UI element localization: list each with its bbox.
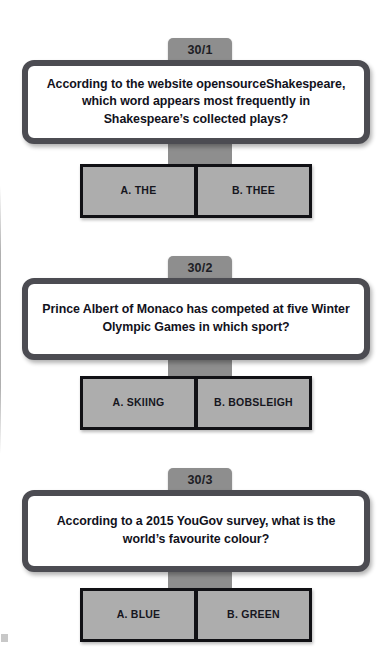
answer-option-a[interactable]: A. BLUE	[83, 591, 194, 639]
answer-option-a-label: A. BLUE	[117, 609, 161, 621]
answer-option-a-label: A. THE	[121, 185, 157, 197]
answer-option-a[interactable]: A. THE	[83, 167, 194, 215]
answer-option-b-label: B. THEE	[232, 185, 275, 197]
answer-option-b-label: B. GREEN	[227, 609, 280, 621]
answer-option-b[interactable]: B. GREEN	[198, 591, 309, 639]
answer-row-3: A. BLUE B. GREEN	[80, 588, 312, 642]
question-number-label: 30/3	[187, 474, 212, 488]
quiz-sheet: 30/1 According to the website opensource…	[0, 0, 392, 648]
page-corner-artifact	[1, 634, 8, 642]
answer-option-b[interactable]: B. THEE	[198, 167, 309, 215]
question-number-label: 30/2	[187, 262, 212, 276]
answer-option-b-label: B. BOBSLEIGH	[214, 397, 293, 409]
question-text: Prince Albert of Monaco has competed at …	[28, 301, 364, 336]
question-card-3: According to a 2015 YouGov survey, what …	[22, 490, 370, 572]
answer-option-a-label: A. SKIING	[113, 397, 165, 409]
question-number-label: 30/1	[187, 44, 212, 58]
page-edge-artifact	[0, 186, 1, 454]
answer-option-b[interactable]: B. BOBSLEIGH	[198, 379, 309, 427]
answer-option-a[interactable]: A. SKIING	[83, 379, 194, 427]
answer-row-1: A. THE B. THEE	[80, 164, 312, 218]
question-text: According to a 2015 YouGov survey, what …	[28, 513, 364, 548]
question-card-1: According to the website opensourceShake…	[22, 60, 370, 144]
question-card-2: Prince Albert of Monaco has competed at …	[22, 278, 370, 360]
answer-row-2: A. SKIING B. BOBSLEIGH	[80, 376, 312, 430]
question-text: According to the website opensourceShake…	[28, 76, 364, 129]
